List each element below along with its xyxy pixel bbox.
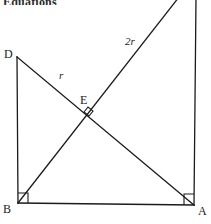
segment-length-label-r: r	[59, 70, 63, 81]
segment-BA	[18, 203, 194, 205]
segment-DB	[17, 57, 18, 203]
vertex-label-d: D	[4, 48, 13, 60]
vertex-label-a: A	[198, 205, 207, 217]
geometry-figure: Equations D B A E r 2r	[0, 0, 211, 224]
vertex-label-b: B	[3, 203, 11, 215]
segment-A-top	[194, 0, 196, 205]
segment-DA-r	[17, 57, 194, 205]
figure-canvas	[0, 0, 211, 224]
vertex-label-e: E	[80, 94, 87, 106]
segment-length-label-2r: 2r	[125, 36, 135, 47]
